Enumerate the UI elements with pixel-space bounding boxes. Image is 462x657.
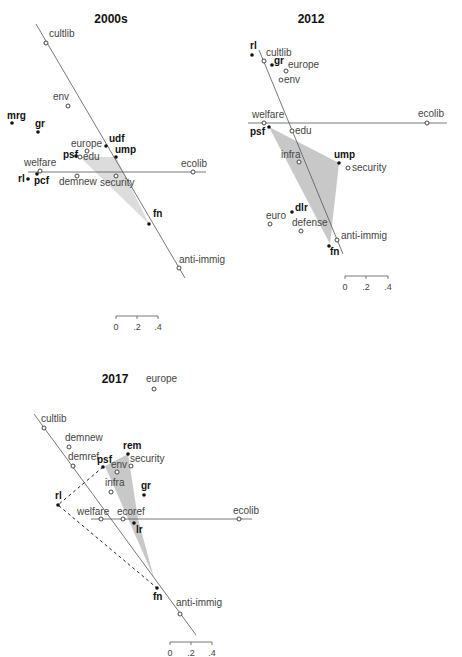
issue-marker-security <box>346 166 350 170</box>
party-label-fn: fn <box>330 246 339 257</box>
panel-2000s: 2000s cultlibenveuropeeduwelfaredemnewse… <box>7 12 225 332</box>
issue-label-edu: edu <box>83 151 100 162</box>
panel-2017: 2017 europecultlibdemnewdemrefenvsecurit… <box>34 372 260 657</box>
party-marker-gr <box>36 130 40 134</box>
issue-label-cultlib: cultlib <box>49 28 75 39</box>
issue-label-europe: europe <box>146 373 178 384</box>
party-label-rl: rl <box>55 490 62 501</box>
party-label-rl: rl <box>18 173 25 184</box>
issue-marker-welfare <box>99 517 103 521</box>
issue-marker-welfare <box>38 169 42 173</box>
issue-marker-env <box>66 104 70 108</box>
panel-title-2017: 2017 <box>102 372 129 386</box>
issue-label-ecolib: ecolib <box>181 158 208 169</box>
party-marker-udf <box>104 144 108 148</box>
issue-marker-welfare <box>262 121 266 125</box>
issue-marker-ecolib <box>237 517 241 521</box>
issue-marker-anti-immig <box>177 266 181 270</box>
party-label-fn: fn <box>153 591 162 602</box>
issue-label-welfare: welfare <box>76 506 110 517</box>
issue-marker-euro <box>268 222 272 226</box>
party-marker-rem <box>126 452 130 456</box>
scale-tick-0: 0 <box>342 282 347 292</box>
issue-marker-demnew <box>67 445 71 449</box>
party-marker-mrg <box>10 121 14 125</box>
issue-label-welfare: welfare <box>251 109 285 120</box>
issue-marker-cultlib <box>42 426 46 430</box>
issue-label-infra: infra <box>105 477 125 488</box>
issue-label-ecolib: ecolib <box>233 505 260 516</box>
issue-label-anti-immig: anti-immig <box>176 597 222 608</box>
party-label-rl: rl <box>250 40 257 51</box>
scale-tick-4: .4 <box>154 322 162 332</box>
issue-marker-europe <box>152 387 156 391</box>
party-marker-psf <box>101 465 105 469</box>
issue-label-security: security <box>130 453 164 464</box>
scale-tick-2: .2 <box>362 282 370 292</box>
issue-label-demnew: demnew <box>65 432 104 443</box>
scale-tick-4: .4 <box>384 282 392 292</box>
party-label-psf: psf <box>97 454 113 465</box>
issue-marker-defense <box>299 229 303 233</box>
scale-tick-0: 0 <box>113 322 118 332</box>
issue-marker-anti-immig <box>335 238 339 242</box>
issue-label-env: env <box>111 459 127 470</box>
scale-bar-2017: 0 .2 .4 <box>167 642 215 657</box>
scale-tick-2: .2 <box>187 648 195 657</box>
issue-marker-security <box>129 464 133 468</box>
party-marker-ump <box>337 161 341 165</box>
issue-label-anti-immig: anti-immig <box>179 254 225 265</box>
issue-marker-anti-immig <box>178 612 182 616</box>
party-marker-rl <box>250 53 254 57</box>
issue-label-cultlib: cultlib <box>41 413 67 424</box>
issue-marker-demref <box>71 464 75 468</box>
party-hull <box>80 157 149 224</box>
issue-marker-ecoref <box>121 517 125 521</box>
scale-bar-2000s: 0 .2 .4 <box>113 316 161 332</box>
issue-marker-ecolib <box>191 170 195 174</box>
points-2000s: cultlibenveuropeeduwelfaredemnewsecurity… <box>7 28 225 270</box>
issue-marker-cultlib <box>262 59 266 63</box>
issue-marker-env <box>115 470 119 474</box>
issue-label-edu: edu <box>295 125 312 136</box>
scale-tick-0: 0 <box>167 648 172 657</box>
scale-tick-4: .4 <box>208 648 216 657</box>
panel-title-2012: 2012 <box>298 12 325 26</box>
party-marker-fn <box>147 222 151 226</box>
issue-label-welfare: welfare <box>23 157 57 168</box>
party-label-gr: gr <box>274 55 284 66</box>
issue-marker-infra <box>109 490 113 494</box>
axis-line-diagonal <box>36 24 185 278</box>
party-label-mrg: mrg <box>7 110 26 121</box>
points-2012: cultlibeuropeenvwelfareecolibeduinfrasec… <box>250 40 445 257</box>
issue-label-security: security <box>352 162 386 173</box>
party-marker-rl <box>26 177 30 181</box>
party-marker-psf <box>267 125 271 129</box>
party-marker-dlr <box>290 210 294 214</box>
party-marker-gr <box>142 493 146 497</box>
issue-label-defense: defense <box>292 217 328 228</box>
party-marker-rl <box>56 503 60 507</box>
party-marker-fn <box>155 586 159 590</box>
party-label-pcf: pcf <box>34 175 50 186</box>
scale-bar-2012: 0 .2 .4 <box>342 276 391 292</box>
party-label-lr: lr <box>136 524 143 535</box>
biplot-figure: 2000s cultlibenveuropeeduwelfaredemnewse… <box>0 0 462 657</box>
issue-label-demref: demref <box>68 451 99 462</box>
issue-label-demnew: demnew <box>59 176 98 187</box>
points-2017: europecultlibdemnewdemrefenvsecurityinfr… <box>41 373 260 616</box>
issue-label-env: env <box>53 91 69 102</box>
party-label-dlr: dlr <box>295 202 308 213</box>
panel-2012: 2012 cultlibeuropeenvwelfareecolibeduinf… <box>248 12 447 292</box>
issue-label-anti-immig: anti-immig <box>341 230 387 241</box>
party-label-udf: udf <box>109 133 125 144</box>
party-label-rem: rem <box>123 440 141 451</box>
issue-label-infra: infra <box>281 149 301 160</box>
issue-marker-ecolib <box>425 121 429 125</box>
issue-label-env: env <box>284 74 300 85</box>
issue-marker-cultlib <box>44 41 48 45</box>
party-label-gr: gr <box>141 480 151 491</box>
party-marker-ump <box>114 155 118 159</box>
party-label-fn: fn <box>153 208 162 219</box>
party-label-gr: gr <box>35 118 45 129</box>
